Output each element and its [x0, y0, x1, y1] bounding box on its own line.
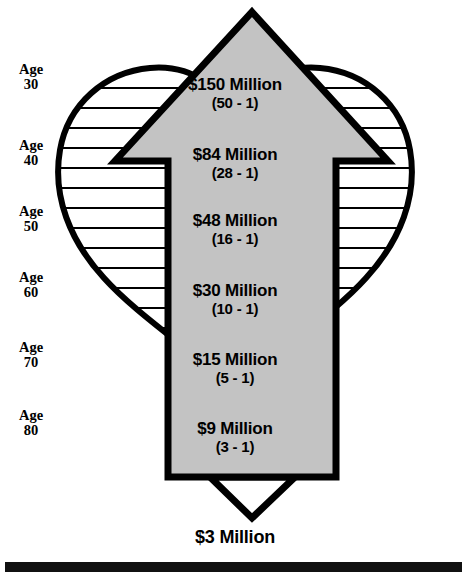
axis-label-age-50: Age 50 — [2, 204, 60, 234]
tier-48-million: $48 Million (16 - 1) — [120, 211, 350, 248]
base-amount-label: $3 Million — [0, 527, 470, 548]
tier-84-million: $84 Million (28 - 1) — [120, 145, 350, 182]
axis-label-age-30-value: 30 — [2, 77, 60, 92]
tier-150-million: $150 Million (50 - 1) — [120, 75, 350, 112]
axis-label-age-50-value: 50 — [2, 219, 60, 234]
tier-9-million-ratio: (3 - 1) — [120, 438, 350, 456]
axis-label-age-80: Age 80 — [2, 408, 60, 438]
axis-label-age-70-word: Age — [2, 340, 60, 355]
axis-label-age-70-value: 70 — [2, 355, 60, 370]
tier-48-million-amount: $48 Million — [120, 211, 350, 230]
axis-label-age-60-word: Age — [2, 270, 60, 285]
axis-label-age-80-value: 80 — [2, 423, 60, 438]
tier-30-million-amount: $30 Million — [120, 281, 350, 300]
axis-label-age-40-word: Age — [2, 138, 60, 153]
tier-30-million-ratio: (10 - 1) — [120, 300, 350, 318]
tier-84-million-ratio: (28 - 1) — [120, 164, 350, 182]
axis-label-age-50-word: Age — [2, 204, 60, 219]
tier-15-million-amount: $15 Million — [120, 350, 350, 369]
tier-9-million: $9 Million (3 - 1) — [120, 419, 350, 456]
tier-15-million: $15 Million (5 - 1) — [120, 350, 350, 387]
axis-label-age-60: Age 60 — [2, 270, 60, 300]
axis-label-age-40-value: 40 — [2, 153, 60, 168]
figure-canvas: Age 30 Age 40 Age 50 Age 60 Age 70 Age 8… — [0, 0, 470, 575]
tier-9-million-amount: $9 Million — [120, 419, 350, 438]
axis-label-age-80-word: Age — [2, 408, 60, 423]
tier-84-million-amount: $84 Million — [120, 145, 350, 164]
axis-label-age-30: Age 30 — [2, 62, 60, 92]
tier-150-million-amount: $150 Million — [120, 75, 350, 94]
tier-15-million-ratio: (5 - 1) — [120, 369, 350, 387]
bottom-divider-bar — [5, 562, 462, 572]
axis-label-age-40: Age 40 — [2, 138, 60, 168]
axis-label-age-60-value: 60 — [2, 285, 60, 300]
tier-150-million-ratio: (50 - 1) — [120, 94, 350, 112]
axis-label-age-30-word: Age — [2, 62, 60, 77]
tier-30-million: $30 Million (10 - 1) — [120, 281, 350, 318]
axis-label-age-70: Age 70 — [2, 340, 60, 370]
tier-48-million-ratio: (16 - 1) — [120, 230, 350, 248]
